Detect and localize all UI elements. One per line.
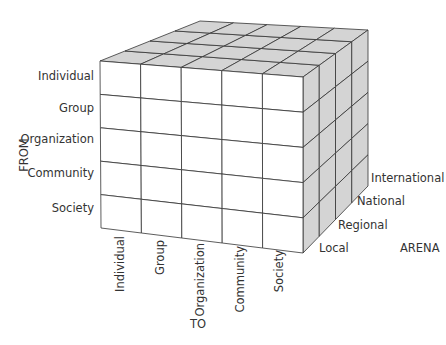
cell bbox=[181, 102, 222, 140]
cell bbox=[100, 61, 141, 98]
from-labels: Individual Group Organization Community … bbox=[20, 69, 94, 215]
arena-label-regional: Regional bbox=[338, 218, 388, 232]
to-label-individual: Individual bbox=[113, 236, 127, 292]
cell bbox=[141, 165, 182, 203]
cell bbox=[263, 213, 303, 253]
from-label-society: Society bbox=[52, 201, 94, 215]
cell bbox=[222, 71, 263, 109]
from-label-community: Community bbox=[27, 166, 94, 180]
cell bbox=[263, 178, 303, 217]
to-label-community: Community bbox=[233, 246, 247, 313]
cell bbox=[141, 64, 182, 101]
to-axis-title: TO bbox=[189, 317, 206, 331]
cell bbox=[101, 195, 142, 233]
arena-label-international: International bbox=[371, 171, 444, 185]
cell bbox=[262, 74, 303, 112]
cell bbox=[141, 132, 182, 170]
cell bbox=[100, 94, 141, 131]
cell bbox=[182, 170, 223, 209]
from-label-organization: Organization bbox=[20, 132, 94, 146]
cell bbox=[141, 199, 182, 238]
arena-axis-title: ARENA bbox=[400, 241, 440, 255]
cell bbox=[222, 105, 263, 143]
cell bbox=[222, 209, 262, 248]
cube-diagram: Individual Group Organization Community … bbox=[0, 0, 446, 345]
cell bbox=[182, 204, 223, 243]
from-axis-title: FROM bbox=[17, 138, 31, 172]
to-label-organization: Organization bbox=[193, 243, 207, 317]
arena-label-local: Local bbox=[319, 241, 349, 255]
cell bbox=[100, 128, 141, 166]
cell bbox=[262, 109, 303, 148]
cell bbox=[222, 174, 263, 213]
from-label-individual: Individual bbox=[38, 69, 94, 83]
cell bbox=[262, 143, 303, 182]
from-label-group: Group bbox=[59, 101, 94, 115]
cell bbox=[181, 67, 222, 105]
to-label-society: Society bbox=[272, 250, 286, 292]
cell bbox=[222, 140, 263, 179]
arena-label-national: National bbox=[357, 194, 405, 208]
cell bbox=[141, 98, 182, 136]
to-label-group: Group bbox=[153, 240, 167, 275]
cell bbox=[181, 136, 222, 174]
front-face bbox=[100, 61, 303, 253]
cell bbox=[101, 161, 142, 199]
